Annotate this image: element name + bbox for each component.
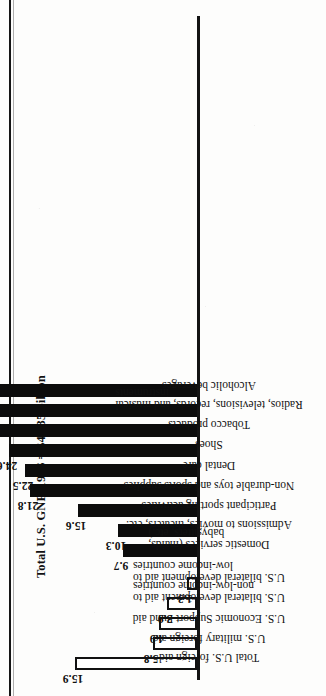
bar-rect xyxy=(9,444,197,457)
category-label-14: Alcoholic beverages xyxy=(203,384,221,397)
bar-rect xyxy=(25,464,197,477)
bar-value-label: 24.6 xyxy=(0,451,17,463)
bar-11: 24.6 xyxy=(9,444,197,457)
bar-chart: Total U.S. GNP, 1986 = $4,235 billion 15… xyxy=(0,0,326,696)
bar-10: 22.5 xyxy=(25,464,197,477)
category-label-10: Dental care xyxy=(203,464,221,477)
category-label-12: Tobacco products xyxy=(203,424,221,437)
category-label-1: Total U.S. foreign aid xyxy=(203,657,221,670)
category-label-6: Domestic services (maids, babysitters, e… xyxy=(203,544,232,557)
category-label-11: Shoes xyxy=(203,444,221,457)
category-label-5: U.S. bilateral development aid to low-in… xyxy=(203,577,232,590)
category-label-4: U.S. bilateral development aid to non-lo… xyxy=(203,597,232,610)
bar-value-label: 15.9 xyxy=(63,664,84,676)
bar-value-label: 5.8 xyxy=(143,644,158,656)
category-label-8: Participant sporting activities xyxy=(203,504,221,517)
rotated-figure-container: Total U.S. GNP, 1986 = $4,235 billion 15… xyxy=(0,0,326,696)
bar-value-label: 22.5 xyxy=(12,471,33,483)
bar-value-label: 15.6 xyxy=(65,511,86,523)
category-label-13: Radios, televisions, records, and musica… xyxy=(203,404,232,417)
bar-value-label: 21.8 xyxy=(18,491,39,503)
category-label-2: U.S. military foreign aid xyxy=(203,637,221,650)
category-label-7: Admissions to movies, theaters, etc. xyxy=(203,524,221,537)
category-label-3: U.S. Economic Support Fund aid xyxy=(203,617,221,630)
bar-value-label: 9.7 xyxy=(113,551,128,563)
bar-value-label: 10.3 xyxy=(106,531,127,543)
category-label-9: Non-durable toys and sports supplies xyxy=(203,484,221,497)
